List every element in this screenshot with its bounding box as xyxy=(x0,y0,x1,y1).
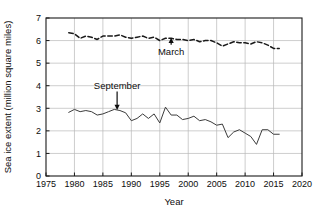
y-tick-label: 6 xyxy=(36,36,41,46)
y-tick-label: 1 xyxy=(36,149,41,159)
x-tick-label: 1980 xyxy=(64,179,84,189)
x-tick-label: 1975 xyxy=(36,179,56,189)
sea-ice-extent-line-chart: 0123456719751980198519901995200020052010… xyxy=(0,0,321,210)
x-tick-label: 1990 xyxy=(121,179,141,189)
y-tick-label: 4 xyxy=(36,81,41,91)
y-tick-label: 2 xyxy=(36,126,41,136)
x-tick-label: 1985 xyxy=(93,179,113,189)
y-tick-label: 3 xyxy=(36,104,41,114)
x-tick-label: 2000 xyxy=(178,179,198,189)
x-tick-label: 2020 xyxy=(292,179,312,189)
x-tick-label: 2015 xyxy=(264,179,284,189)
x-tick-label: 1995 xyxy=(150,179,170,189)
y-tick-label: 7 xyxy=(36,13,41,23)
annotation-label-september: September xyxy=(94,80,140,91)
annotation-label-march: March xyxy=(158,46,184,57)
x-axis-title: Year xyxy=(164,196,183,207)
chart-figure: 0123456719751980198519901995200020052010… xyxy=(0,0,321,210)
x-tick-label: 2010 xyxy=(235,179,255,189)
x-tick-label: 2005 xyxy=(207,179,227,189)
y-axis-title: Sea ice extent (million square miles) xyxy=(2,21,13,174)
y-tick-label: 5 xyxy=(36,58,41,68)
